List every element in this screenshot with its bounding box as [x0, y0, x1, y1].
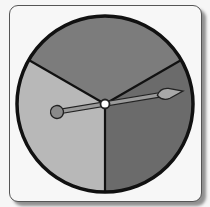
spinner-graphic [0, 0, 210, 207]
spinner-figure: Three-section spinner [0, 0, 210, 207]
spinner-hub [101, 100, 110, 109]
